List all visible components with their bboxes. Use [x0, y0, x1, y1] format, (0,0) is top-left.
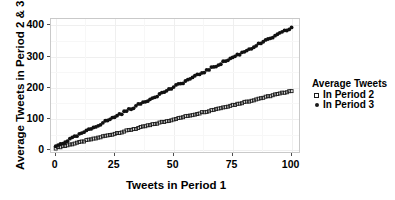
data-point	[120, 112, 124, 116]
y-tick-label: 400	[14, 18, 44, 30]
plot-series-layer	[51, 19, 300, 153]
chart-container: Average Tweets in Period 2 & 3 Tweets in…	[0, 0, 395, 200]
x-tick-label: 0	[40, 158, 70, 170]
y-tick-label: 0	[14, 143, 44, 155]
y-tick-label: 100	[14, 112, 44, 124]
filled-dot-icon	[312, 101, 321, 110]
data-point	[219, 62, 223, 66]
open-square-icon	[312, 91, 321, 100]
legend-title: Average Tweets	[312, 78, 392, 89]
x-tick-label: 25	[99, 158, 129, 170]
y-tick-label: 300	[14, 50, 44, 62]
x-tick-mark	[173, 153, 174, 156]
plot-panel	[50, 18, 300, 153]
x-axis-title: Tweets in Period 1	[56, 179, 296, 191]
x-tick-label: 75	[217, 158, 247, 170]
x-tick-mark	[291, 153, 292, 156]
x-tick-mark	[232, 153, 233, 156]
legend-item-label: In Period 3	[323, 100, 374, 110]
y-tick-label: 200	[14, 81, 44, 93]
x-tick-label: 50	[158, 158, 188, 170]
data-point	[290, 26, 294, 30]
x-tick-label: 100	[276, 158, 306, 170]
legend: Average Tweets In Period 2 In Period 3	[312, 78, 392, 110]
series-in-period-2	[54, 90, 293, 150]
x-tick-mark	[114, 153, 115, 156]
legend-item-period-3: In Period 3	[312, 100, 392, 110]
x-tick-mark	[55, 153, 56, 156]
series-in-period-3	[54, 26, 294, 149]
